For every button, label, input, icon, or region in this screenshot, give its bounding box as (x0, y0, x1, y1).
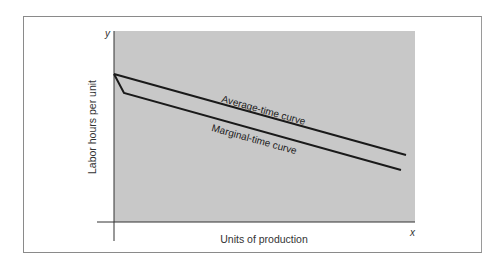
x-axis-symbol: x (410, 227, 415, 238)
x-axis-label: Units of production (220, 233, 308, 245)
plot-area (114, 31, 415, 222)
y-axis-label: Labor hours per unit (86, 80, 98, 174)
y-axis-symbol: y (105, 28, 110, 39)
